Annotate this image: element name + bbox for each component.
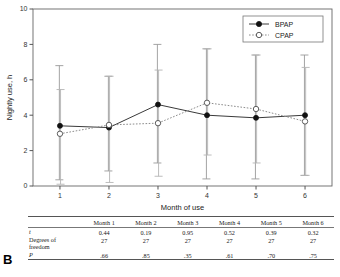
stats-cell: 27 xyxy=(167,236,209,251)
stats-cell: .61 xyxy=(209,251,251,260)
stats-cell: 27 xyxy=(292,236,334,251)
stats-col-header-6: Month 6 xyxy=(292,217,334,228)
stats-col-header-3: Month 3 xyxy=(167,217,209,228)
data-point-cpap xyxy=(253,106,258,111)
data-point-cpap xyxy=(155,120,160,125)
stats-table-row: P.66.85.35.61.70.75 xyxy=(28,251,334,260)
data-point-cpap xyxy=(204,100,209,105)
stats-cell: 0.44 xyxy=(83,228,125,237)
x-tick-label: 6 xyxy=(303,192,307,199)
data-point-bpap xyxy=(205,113,210,118)
y-tick-label: 8 xyxy=(24,41,28,48)
x-tick-label: 5 xyxy=(254,192,258,199)
legend-label-cpap: CPAP xyxy=(275,32,294,39)
y-tick-label: 2 xyxy=(24,147,28,154)
stats-row-label: t xyxy=(28,228,83,237)
data-point-cpap xyxy=(57,131,62,136)
stats-cell: 0.95 xyxy=(167,228,209,237)
stats-row-label: Degrees of freedom xyxy=(28,236,83,251)
stats-cell: 0.39 xyxy=(250,228,292,237)
stats-table-container: Month 1 Month 2 Month 3 Month 4 Month 5 … xyxy=(28,216,334,260)
stats-table-row: Degrees of freedom272727272727 xyxy=(28,236,334,251)
y-tick-label: 4 xyxy=(24,112,28,119)
legend-marker-cpap xyxy=(256,32,261,37)
stats-col-header-1: Month 1 xyxy=(83,217,125,228)
data-point-cpap xyxy=(302,119,307,124)
nightly-use-line-chart: 0246810123456Nightly use, hMonth of useB… xyxy=(0,0,340,212)
stats-cell: 0.52 xyxy=(209,228,251,237)
stats-table-body: t0.440.190.950.520.390.32Degrees of free… xyxy=(28,228,334,260)
stats-col-header-2: Month 2 xyxy=(125,217,167,228)
stats-cell: 27 xyxy=(125,236,167,251)
data-point-cpap xyxy=(106,122,111,127)
stats-row-label: P xyxy=(28,251,83,260)
data-point-bpap xyxy=(155,102,160,107)
chart-area: 0246810123456Nightly use, hMonth of useB… xyxy=(0,0,340,212)
stats-cell: .35 xyxy=(167,251,209,260)
x-tick-label: 2 xyxy=(107,192,111,199)
legend-marker-bpap xyxy=(256,21,261,26)
stats-cell: 27 xyxy=(83,236,125,251)
x-axis-title: Month of use xyxy=(161,203,204,212)
y-tick-label: 0 xyxy=(24,182,28,189)
y-axis-title: Nightly use, h xyxy=(5,75,14,120)
series-line-bpap xyxy=(60,105,305,128)
stats-col-header-4: Month 4 xyxy=(209,217,251,228)
stats-cell: .70 xyxy=(250,251,292,260)
series-line-cpap xyxy=(60,103,305,134)
stats-cell: .75 xyxy=(292,251,334,260)
stats-cell: 27 xyxy=(250,236,292,251)
figure-panel-b: 0246810123456Nightly use, hMonth of useB… xyxy=(0,0,340,277)
stats-table-header-row: Month 1 Month 2 Month 3 Month 4 Month 5 … xyxy=(28,217,334,228)
x-tick-label: 4 xyxy=(205,192,209,199)
data-point-bpap xyxy=(303,113,308,118)
stats-cell: .66 xyxy=(83,251,125,260)
panel-label-b: B xyxy=(3,252,12,267)
stats-cell: 27 xyxy=(209,236,251,251)
y-tick-label: 6 xyxy=(24,76,28,83)
stats-cell: 0.32 xyxy=(292,228,334,237)
data-point-bpap xyxy=(57,123,62,128)
stats-col-header-0 xyxy=(28,217,83,228)
data-point-bpap xyxy=(254,115,259,120)
x-tick-label: 1 xyxy=(58,192,62,199)
stats-table-head: Month 1 Month 2 Month 3 Month 4 Month 5 … xyxy=(28,217,334,228)
stats-table: Month 1 Month 2 Month 3 Month 4 Month 5 … xyxy=(28,216,334,260)
stats-col-header-5: Month 5 xyxy=(250,217,292,228)
stats-table-row: t0.440.190.950.520.390.32 xyxy=(28,228,334,237)
x-tick-label: 3 xyxy=(156,192,160,199)
legend-label-bpap: BPAP xyxy=(275,21,293,28)
stats-cell: 0.19 xyxy=(125,228,167,237)
y-tick-label: 10 xyxy=(20,5,28,12)
stats-cell: .85 xyxy=(125,251,167,260)
